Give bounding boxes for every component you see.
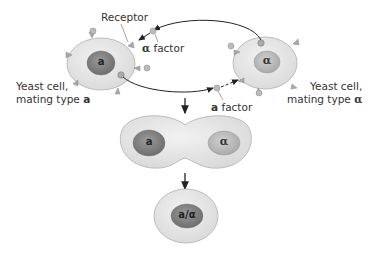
receptor-label: Receptor	[101, 11, 148, 24]
cell-alpha-caption: Yeast cell, mating type α	[287, 80, 362, 106]
fusing-cells	[120, 116, 251, 168]
fusing-nucleus-a-label: a	[143, 136, 155, 147]
nucleus-alpha-label: α	[260, 54, 274, 67]
a-factor-arrow	[123, 77, 213, 92]
nucleus-a-label: a	[95, 56, 107, 67]
cell-a-caption: Yeast cell, mating type a	[16, 80, 90, 106]
diploid-nucleus-label: a/α	[172, 209, 202, 220]
a-factor-label: a factor	[211, 101, 252, 114]
alpha-factor-arrow	[154, 20, 261, 40]
alpha-factor-icon	[258, 40, 264, 46]
fusing-nucleus-alpha-label: α	[217, 135, 231, 148]
alpha-factor-label: α factor	[142, 42, 184, 55]
